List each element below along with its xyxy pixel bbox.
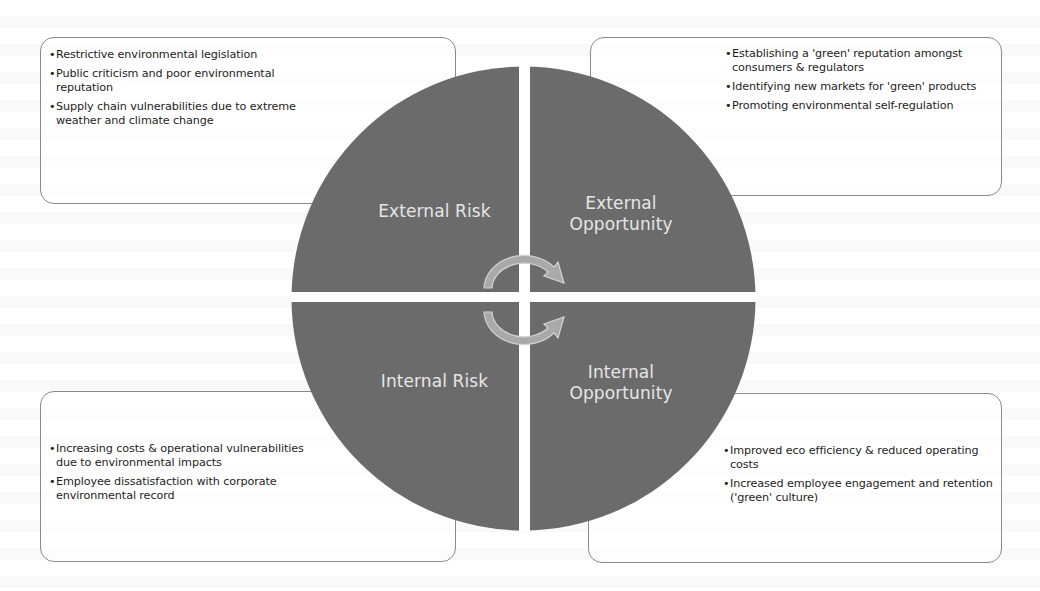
cycle-arrows-icon: [480, 250, 575, 350]
internal-risk-list: •Increasing costs & operational vulnerab…: [49, 442, 309, 508]
list-item: •Public criticism and poor environmental…: [49, 67, 299, 95]
external-opportunity-list: •Establishing a 'green' reputation among…: [725, 47, 995, 118]
bullet-icon: •: [725, 47, 732, 61]
bullet-icon: •: [49, 67, 56, 81]
list-item: •Supply chain vulnerabilities due to ext…: [49, 100, 299, 128]
external-risk-label: External Risk: [362, 201, 507, 222]
internal-opportunity-list: •Improved eco efficiency & reduced opera…: [723, 444, 993, 510]
list-item: •Increased employee engagement and reten…: [723, 477, 993, 505]
list-item: •Improved eco efficiency & reduced opera…: [723, 444, 993, 472]
internal-risk-label: Internal Risk: [362, 371, 507, 392]
bullet-icon: •: [49, 48, 56, 62]
list-item: •Establishing a 'green' reputation among…: [725, 47, 995, 75]
bullet-icon: •: [49, 100, 56, 114]
list-item: •Restrictive environmental legislation: [49, 48, 299, 62]
list-item: •Identifying new markets for 'green' pro…: [725, 80, 995, 94]
list-item: •Promoting environmental self-regulation: [725, 99, 995, 113]
external-opportunity-label: External Opportunity: [546, 193, 696, 235]
bullet-icon: •: [49, 475, 56, 489]
external-risk-list: •Restrictive environmental legislation •…: [49, 48, 299, 133]
bullet-icon: •: [49, 442, 56, 456]
top-arrow-icon: [484, 255, 564, 288]
bottom-arrow-icon: [484, 312, 564, 345]
internal-opportunity-label: Internal Opportunity: [546, 362, 696, 404]
list-item: •Employee dissatisfaction with corporate…: [49, 475, 309, 503]
list-item: •Increasing costs & operational vulnerab…: [49, 442, 309, 470]
